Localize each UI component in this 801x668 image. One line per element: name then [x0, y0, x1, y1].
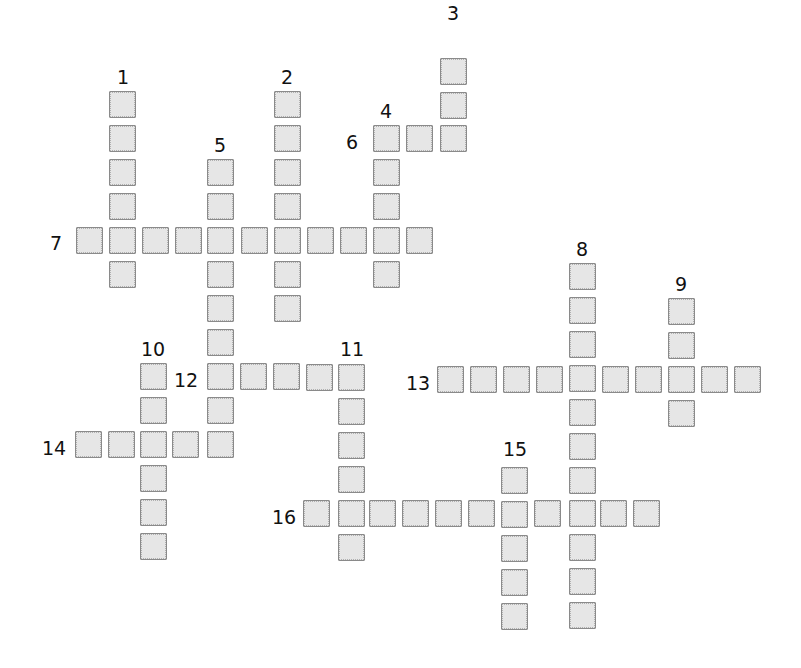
crossword-cell-7-across-11[interactable]: [406, 227, 433, 254]
crossword-cell-2-down-7[interactable]: [274, 295, 301, 322]
crossword-cell-7-across-6[interactable]: [241, 227, 268, 254]
clue-number-3: 3: [447, 4, 459, 23]
crossword-cell-4-down-1[interactable]: [373, 125, 400, 152]
crossword-cell-13-across-4[interactable]: [536, 366, 563, 393]
crossword-cell-15-down-3[interactable]: [501, 535, 528, 562]
crossword-cell-2-down-1[interactable]: [274, 91, 301, 118]
crossword-cell-2-down-5[interactable]: [274, 227, 301, 254]
crossword-cell-8-down-2[interactable]: [569, 297, 596, 324]
crossword-cell-13-across-7[interactable]: [635, 366, 662, 393]
clue-number-10: 10: [141, 340, 165, 359]
crossword-cell-1-down-4[interactable]: [109, 193, 136, 220]
crossword-cell-7-across-1[interactable]: [76, 227, 103, 254]
crossword-cell-7-across-8[interactable]: [307, 227, 334, 254]
crossword-cell-4-down-2[interactable]: [373, 159, 400, 186]
crossword-cell-16-across-1[interactable]: [303, 500, 330, 527]
crossword-cell-2-down-6[interactable]: [274, 261, 301, 288]
crossword-cell-13-across-10[interactable]: [734, 366, 761, 393]
crossword-cell-14-across-2[interactable]: [108, 431, 135, 458]
crossword-cell-16-across-8[interactable]: [534, 500, 561, 527]
crossword-cell-15-down-2[interactable]: [501, 501, 528, 528]
crossword-board: 12345678910111213141516: [0, 0, 801, 668]
crossword-cell-5-down-1[interactable]: [207, 159, 234, 186]
crossword-cell-7-across-4[interactable]: [175, 227, 202, 254]
crossword-cell-9-down-1[interactable]: [668, 298, 695, 325]
crossword-cell-10-down-4[interactable]: [140, 465, 167, 492]
crossword-cell-10-down-6[interactable]: [140, 533, 167, 560]
crossword-cell-11-down-6[interactable]: [338, 534, 365, 561]
crossword-cell-5-down-2[interactable]: [207, 193, 234, 220]
crossword-cell-15-down-4[interactable]: [501, 569, 528, 596]
crossword-cell-13-across-3[interactable]: [503, 366, 530, 393]
clue-number-8: 8: [576, 240, 588, 259]
crossword-cell-3-down-3[interactable]: [440, 125, 467, 152]
crossword-cell-2-down-2[interactable]: [274, 125, 301, 152]
crossword-cell-8-down-3[interactable]: [569, 331, 596, 358]
crossword-cell-9-down-2[interactable]: [668, 332, 695, 359]
crossword-cell-10-down-1[interactable]: [140, 363, 167, 390]
crossword-cell-11-down-3[interactable]: [338, 432, 365, 459]
crossword-cell-16-across-10[interactable]: [600, 500, 627, 527]
crossword-cell-13-across-1[interactable]: [437, 366, 464, 393]
crossword-cell-7-across-9[interactable]: [340, 227, 367, 254]
crossword-cell-13-across-9[interactable]: [701, 366, 728, 393]
crossword-cell-8-down-11[interactable]: [569, 602, 596, 629]
crossword-cell-12-across-3[interactable]: [273, 363, 300, 390]
crossword-cell-4-down-3[interactable]: [373, 193, 400, 220]
crossword-cell-8-down-10[interactable]: [569, 568, 596, 595]
crossword-cell-4-down-4[interactable]: [373, 227, 400, 254]
crossword-cell-16-across-11[interactable]: [633, 500, 660, 527]
crossword-cell-5-down-3[interactable]: [207, 227, 234, 254]
crossword-cell-1-down-1[interactable]: [109, 91, 136, 118]
crossword-cell-16-across-5[interactable]: [435, 500, 462, 527]
crossword-cell-16-across-4[interactable]: [402, 500, 429, 527]
crossword-cell-10-down-5[interactable]: [140, 499, 167, 526]
crossword-cell-9-down-3[interactable]: [668, 366, 695, 393]
crossword-cell-15-down-5[interactable]: [501, 603, 528, 630]
crossword-cell-5-down-6[interactable]: [207, 329, 234, 356]
crossword-cell-8-down-9[interactable]: [569, 534, 596, 561]
crossword-cell-3-down-2[interactable]: [440, 92, 467, 119]
crossword-cell-5-down-5[interactable]: [207, 295, 234, 322]
crossword-cell-11-down-5[interactable]: [338, 500, 365, 527]
crossword-cell-4-down-5[interactable]: [373, 261, 400, 288]
crossword-cell-8-down-6[interactable]: [569, 433, 596, 460]
crossword-cell-9-down-4[interactable]: [668, 400, 695, 427]
crossword-cell-12-across-2[interactable]: [240, 363, 267, 390]
crossword-cell-12-across-4[interactable]: [306, 364, 333, 391]
crossword-cell-13-across-2[interactable]: [470, 366, 497, 393]
crossword-cell-8-down-4[interactable]: [569, 365, 596, 392]
crossword-cell-16-across-6[interactable]: [468, 500, 495, 527]
crossword-cell-10-down-2[interactable]: [140, 397, 167, 424]
crossword-cell-2-down-4[interactable]: [274, 193, 301, 220]
crossword-cell-13-across-6[interactable]: [602, 366, 629, 393]
crossword-cell-1-down-2[interactable]: [109, 125, 136, 152]
crossword-cell-11-down-2[interactable]: [338, 398, 365, 425]
crossword-cell-3-down-1[interactable]: [440, 58, 467, 85]
crossword-cell-8-down-8[interactable]: [569, 500, 596, 527]
crossword-cell-8-down-1[interactable]: [569, 263, 596, 290]
crossword-cell-1-down-6[interactable]: [109, 261, 136, 288]
crossword-cell-1-down-5[interactable]: [109, 227, 136, 254]
clue-number-2: 2: [281, 68, 293, 87]
crossword-cell-5-down-9[interactable]: [207, 431, 234, 458]
crossword-cell-11-down-4[interactable]: [338, 466, 365, 493]
crossword-cell-16-across-3[interactable]: [369, 500, 396, 527]
crossword-cell-8-down-7[interactable]: [569, 467, 596, 494]
crossword-cell-7-across-3[interactable]: [142, 227, 169, 254]
clue-number-14: 14: [42, 439, 66, 458]
crossword-cell-15-down-1[interactable]: [501, 467, 528, 494]
crossword-cell-5-down-4[interactable]: [207, 261, 234, 288]
crossword-cell-6-across-2[interactable]: [406, 125, 433, 152]
clue-number-6: 6: [346, 133, 358, 152]
crossword-cell-11-down-1[interactable]: [338, 364, 365, 391]
clue-number-1: 1: [117, 68, 129, 87]
crossword-cell-2-down-3[interactable]: [274, 159, 301, 186]
crossword-cell-14-across-4[interactable]: [172, 431, 199, 458]
crossword-cell-10-down-3[interactable]: [140, 431, 167, 458]
crossword-cell-8-down-5[interactable]: [569, 399, 596, 426]
crossword-cell-14-across-1[interactable]: [75, 431, 102, 458]
crossword-cell-5-down-7[interactable]: [207, 363, 234, 390]
crossword-cell-1-down-3[interactable]: [109, 159, 136, 186]
crossword-cell-5-down-8[interactable]: [207, 397, 234, 424]
